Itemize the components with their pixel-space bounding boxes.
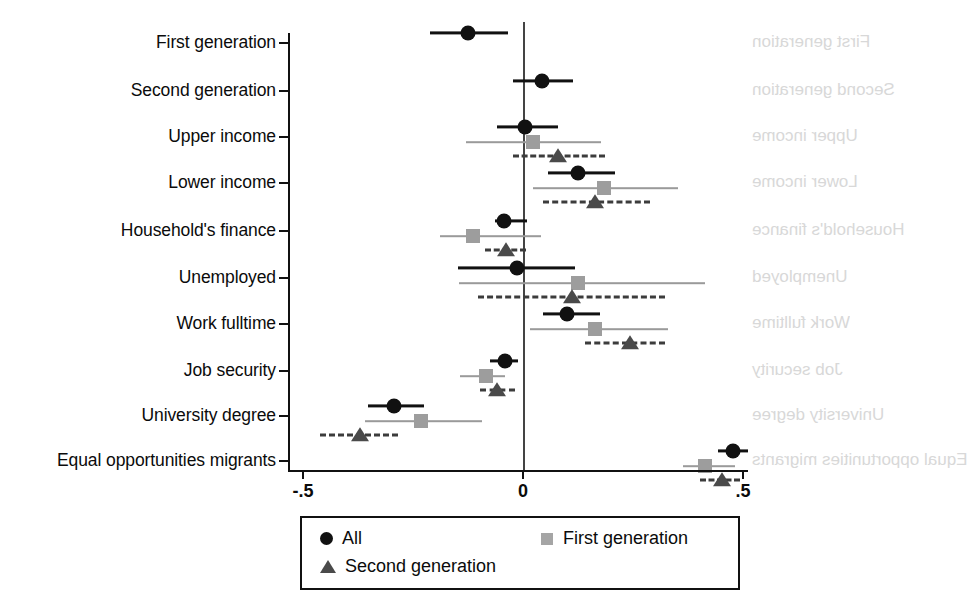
bleed-through-text: Lower income bbox=[752, 172, 858, 192]
y-axis-tick-unemployed bbox=[279, 277, 288, 279]
point-marker-all-work-fulltime bbox=[560, 307, 575, 322]
y-axis-label-equal-opportunities-migrants: Equal opportunities migrants bbox=[57, 450, 276, 471]
point-marker-all-unemployed bbox=[509, 261, 524, 276]
bleed-through-text: University degree bbox=[752, 405, 884, 425]
point-marker-second-generation-equal-opportunities-migrants bbox=[713, 472, 731, 486]
y-axis-label-second-generation: Second generation bbox=[131, 80, 276, 101]
y-axis-tick-upper-income bbox=[279, 136, 288, 138]
y-axis-tick-lower-income bbox=[279, 182, 288, 184]
x-axis-tick-2 bbox=[742, 470, 744, 479]
point-marker-first-generation-upper-income bbox=[526, 135, 540, 149]
point-marker-second-generation-lower-income bbox=[586, 194, 604, 208]
point-marker-all-job-security bbox=[497, 354, 512, 369]
bleed-through-text: Equal opportunities migrants bbox=[752, 450, 967, 470]
circle-marker-icon bbox=[320, 532, 333, 545]
x-axis-tick-label-1: 0 bbox=[518, 481, 528, 502]
point-marker-first-generation-household-s-finance bbox=[466, 229, 480, 243]
legend-label-all: All bbox=[342, 528, 362, 549]
bleed-through-text: Job security bbox=[752, 360, 843, 380]
point-marker-second-generation-university-degree bbox=[351, 427, 369, 441]
point-marker-all-household-s-finance bbox=[497, 214, 512, 229]
y-axis-label-university-degree: University degree bbox=[142, 405, 276, 426]
point-marker-second-generation-work-fulltime bbox=[621, 335, 639, 349]
y-axis-label-work-fulltime: Work fulltime bbox=[176, 313, 276, 334]
legend-label-second-generation: Second generation bbox=[345, 556, 496, 577]
point-marker-all-second-generation bbox=[534, 74, 549, 89]
legend-box: All First generation Second generation bbox=[300, 516, 740, 590]
bleed-through-text: Household's finance bbox=[752, 220, 905, 240]
point-marker-all-university-degree bbox=[387, 399, 402, 414]
y-axis-label-job-security: Job security bbox=[184, 360, 276, 381]
bleed-through-text: Unemployed bbox=[752, 267, 847, 287]
bleed-through-text: Work fulltime bbox=[752, 313, 850, 333]
point-marker-all-first-generation bbox=[461, 26, 476, 41]
point-marker-all-upper-income bbox=[518, 120, 533, 135]
point-marker-first-generation-lower-income bbox=[597, 181, 611, 195]
y-axis-label-unemployed: Unemployed bbox=[179, 267, 276, 288]
y-axis-label-household-s-finance: Household's finance bbox=[121, 220, 276, 241]
x-axis-tick-label-0: -.5 bbox=[292, 481, 313, 502]
plot-area bbox=[288, 33, 748, 470]
y-axis-tick-first-generation bbox=[279, 42, 288, 44]
y-axis-tick-job-security bbox=[279, 370, 288, 372]
y-axis-tick-second-generation bbox=[279, 90, 288, 92]
point-marker-second-generation-job-security bbox=[488, 382, 506, 396]
point-marker-all-equal-opportunities-migrants bbox=[725, 444, 740, 459]
y-axis-label-upper-income: Upper income bbox=[168, 126, 276, 147]
legend-item-first-generation: First generation bbox=[540, 528, 688, 549]
square-marker-icon bbox=[541, 533, 553, 545]
x-axis-tick-label-2: .5 bbox=[735, 481, 750, 502]
y-axis-tick-work-fulltime bbox=[279, 323, 288, 325]
y-axis-tick-equal-opportunities-migrants bbox=[279, 460, 288, 462]
x-axis-line bbox=[288, 470, 748, 472]
point-marker-first-generation-work-fulltime bbox=[588, 322, 602, 336]
legend-label-first-generation: First generation bbox=[563, 528, 688, 549]
y-axis-label-lower-income: Lower income bbox=[168, 172, 276, 193]
bleed-through-text: Second generation bbox=[752, 80, 895, 100]
point-marker-first-generation-job-security bbox=[479, 369, 493, 383]
x-axis-tick-1 bbox=[522, 470, 524, 479]
y-axis-tick-university-degree bbox=[279, 415, 288, 417]
y-axis-tick-household-s-finance bbox=[279, 230, 288, 232]
y-axis-label-first-generation: First generation bbox=[156, 32, 276, 53]
legend-item-all: All bbox=[320, 528, 362, 549]
point-marker-first-generation-unemployed bbox=[571, 276, 585, 290]
x-axis-tick-0 bbox=[302, 470, 304, 479]
point-marker-first-generation-university-degree bbox=[414, 414, 428, 428]
bleed-through-text: First generation bbox=[752, 32, 870, 52]
confidence-interval-first-generation-household-s-finance bbox=[440, 235, 541, 237]
point-marker-second-generation-upper-income bbox=[549, 148, 567, 162]
legend-item-second-generation: Second generation bbox=[320, 556, 496, 577]
y-axis-label-group: First generationSecond generationUpper i… bbox=[0, 0, 276, 616]
point-marker-second-generation-household-s-finance bbox=[497, 242, 515, 256]
point-marker-second-generation-unemployed bbox=[563, 289, 581, 303]
point-marker-all-lower-income bbox=[571, 166, 586, 181]
bleed-through-text: Upper income bbox=[752, 126, 858, 146]
triangle-marker-icon bbox=[320, 560, 336, 573]
